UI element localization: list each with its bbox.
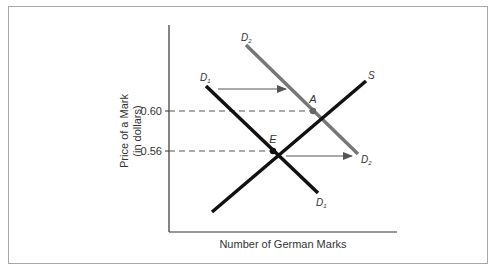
d1-top-label: D1: [200, 72, 211, 84]
d2-bottom-label-main: D: [361, 154, 368, 165]
point-a-label: A: [308, 93, 316, 105]
demand-curve-d1: [206, 86, 318, 193]
d2-top-label: D2: [241, 32, 252, 44]
d2-top-label-sub: 2: [247, 38, 252, 44]
d1-bottom-label-main: D: [316, 197, 323, 208]
tick-label-056: 0.56: [141, 145, 162, 157]
x-axis-label: Number of German Marks: [219, 238, 347, 250]
d1-top-label-sub: 1: [207, 78, 210, 84]
point-a: [310, 108, 316, 114]
y-axis-label-line1: Price of a Mark: [118, 94, 130, 168]
d2-top-label-main: D: [241, 32, 248, 43]
point-e-label: E: [269, 133, 277, 145]
y-axis-label-line2: (in dollars): [131, 105, 143, 156]
supply-demand-diagram: 0.60 0.56 Price of a Mark (in dollars) N…: [0, 0, 500, 272]
supply-curve-s: [212, 81, 366, 212]
point-e: [270, 148, 276, 154]
d2-bottom-label-sub: 2: [367, 160, 372, 166]
d1-bottom-label-sub: 1: [323, 203, 326, 209]
d2-bottom-label: D2: [361, 154, 372, 166]
tick-label-060: 0.60: [141, 105, 162, 117]
d1-top-label-main: D: [200, 72, 207, 83]
d1-bottom-label: D1: [316, 197, 327, 209]
s-label: S: [368, 70, 375, 81]
